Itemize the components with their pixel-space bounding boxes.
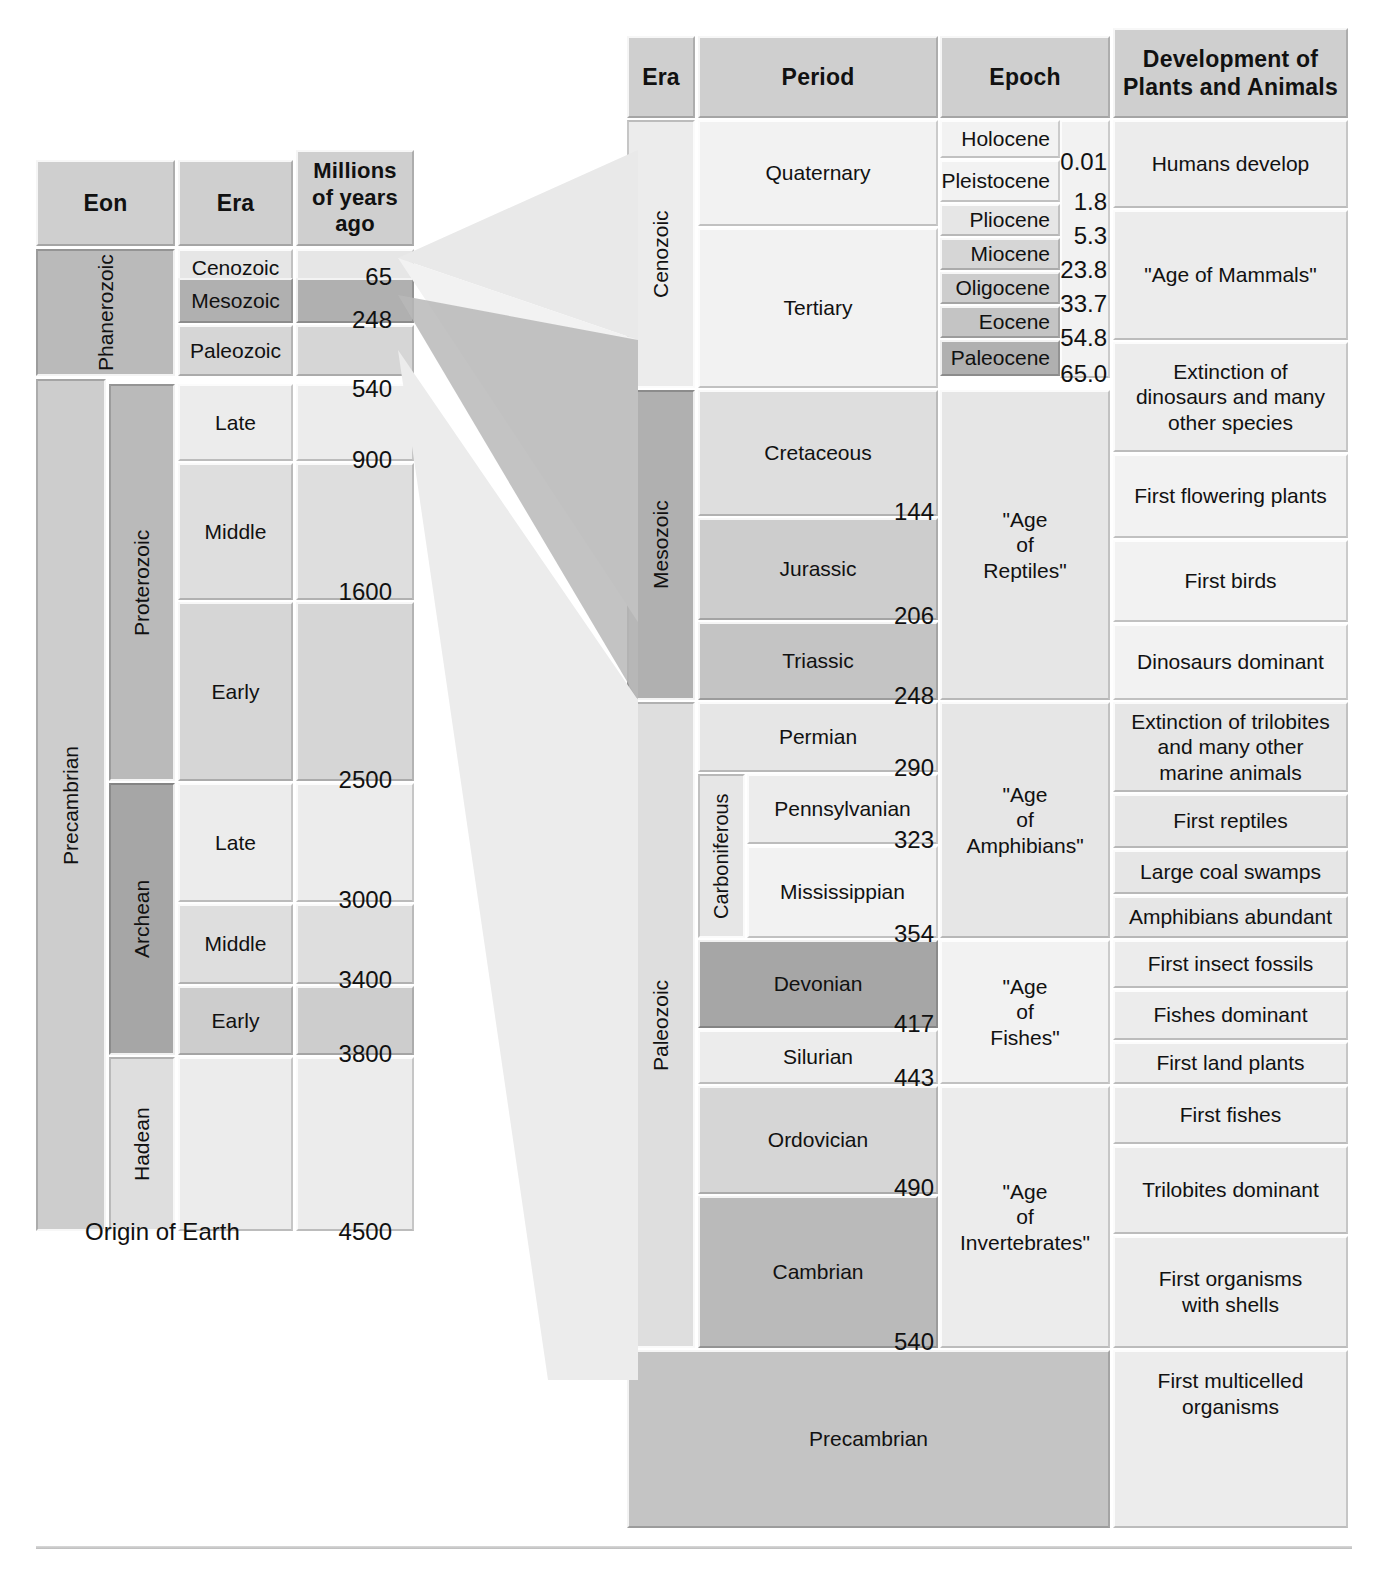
left-subdivision-archean-middle: Middle — [178, 904, 293, 984]
right-epoch-boundary-0-01: 0.01 — [1045, 148, 1107, 176]
left-header-eon: Eon — [36, 160, 175, 246]
left-boundary-248: 248 — [300, 306, 392, 334]
left-boundary-2500: 2500 — [300, 766, 392, 794]
left-era-mesozoic: Mesozoic — [178, 278, 293, 323]
footer-rule — [36, 1546, 1352, 1549]
right-period-boundary-206: 206 — [848, 602, 934, 630]
left-boundary-900: 900 — [300, 446, 392, 474]
right-header-development: Development of Plants and Animals — [1113, 28, 1348, 118]
right-epoch-holocene: Holocene — [940, 120, 1060, 158]
left-boundary-3400: 3400 — [300, 966, 392, 994]
left-subdivision-hadean-blank — [178, 1057, 293, 1231]
right-development-age-of-mammals: "Age of Mammals" — [1113, 210, 1348, 340]
right-development-trilobites-dominant: Trilobites dominant — [1113, 1146, 1348, 1234]
left-eon-precambrian: Precambrian — [36, 379, 106, 1231]
right-header-epoch: Epoch — [940, 36, 1110, 118]
left-boundary-540: 540 — [300, 375, 392, 403]
right-group-age-of-invertebrates: "Age of Invertebrates" — [940, 1086, 1110, 1348]
right-epoch-oligocene: Oligocene — [940, 272, 1060, 304]
right-era-precambrian: Precambrian — [627, 1350, 1110, 1528]
right-period-boundary-290: 290 — [848, 754, 934, 782]
right-header-era: Era — [627, 36, 695, 118]
right-development-amphibians-abundant: Amphibians abundant — [1113, 896, 1348, 938]
right-period-boundary-443: 443 — [848, 1064, 934, 1092]
left-subdivision-proterozoic-early: Early — [178, 602, 293, 781]
right-epoch-boundary-1-8: 1.8 — [1045, 188, 1107, 216]
right-development-humans-develop: Humans develop — [1113, 120, 1348, 208]
left-header-era: Era — [178, 160, 293, 246]
right-epoch-eocene: Eocene — [940, 306, 1060, 338]
right-group-age-of-amphibians: "Age of Amphibians" — [940, 702, 1110, 938]
left-era-hadean: Hadean — [109, 1057, 175, 1231]
right-period-boundary-144: 144 — [848, 498, 934, 526]
right-development-first-reptiles: First reptiles — [1113, 794, 1348, 848]
left-subdivision-archean-late: Late — [178, 783, 293, 902]
left-boundary-1600: 1600 — [300, 578, 392, 606]
right-development-extinction-trilobites: Extinction of trilobites and many other … — [1113, 702, 1348, 792]
left-mya-cell-3000 — [296, 783, 414, 902]
left-boundary-65: 65 — [300, 263, 392, 291]
right-epoch-boundary-33-7: 33.7 — [1045, 290, 1107, 318]
right-period-carboniferous: Carboniferous — [698, 774, 745, 938]
right-period-boundary-248: 248 — [848, 682, 934, 710]
left-subdivision-proterozoic-middle: Middle — [178, 463, 293, 600]
right-epoch-pleistocene: Pleistocene — [940, 160, 1060, 202]
left-eon-phanerozoic: Phanerozoic — [36, 249, 175, 376]
origin-of-earth-label: Origin of Earth — [85, 1218, 240, 1246]
right-period-boundary-417: 417 — [848, 1010, 934, 1038]
right-epoch-boundary-5-3: 5.3 — [1045, 222, 1107, 250]
right-epoch-boundary-23-8: 23.8 — [1045, 256, 1107, 284]
right-development-first-organisms-with-shells: First organisms with shells — [1113, 1236, 1348, 1348]
left-subdivision-proterozoic-late: Late — [178, 384, 293, 461]
left-subdivision-archean-early: Early — [178, 986, 293, 1055]
right-period-boundary-323: 323 — [848, 826, 934, 854]
right-header-period: Period — [698, 36, 938, 118]
left-mya-cell-4500 — [296, 1057, 414, 1231]
left-boundary-3000: 3000 — [300, 886, 392, 914]
right-period-boundary-540: 540 — [848, 1328, 934, 1356]
left-era-archean: Archean — [109, 783, 175, 1055]
right-epoch-pliocene: Pliocene — [940, 204, 1060, 236]
right-development-fishes-dominant: Fishes dominant — [1113, 990, 1348, 1040]
right-period-tertiary: Tertiary — [698, 228, 938, 388]
right-epoch-miocene: Miocene — [940, 238, 1060, 270]
right-period-quaternary: Quaternary — [698, 120, 938, 226]
right-period-cambrian: Cambrian — [698, 1196, 938, 1348]
right-period-boundary-354: 354 — [848, 920, 934, 948]
left-boundary-3800: 3800 — [300, 1040, 392, 1068]
right-development-dinosaurs-dominant: Dinosaurs dominant — [1113, 624, 1348, 700]
right-epoch-paleocene: Paleocene — [940, 340, 1060, 376]
left-mya-cell-2500 — [296, 602, 414, 781]
right-development-first-multicelled-organisms: First multicelled organisms — [1113, 1350, 1348, 1528]
right-epoch-boundary-54-8: 54.8 — [1045, 324, 1107, 352]
right-development-large-coal-swamps: Large coal swamps — [1113, 850, 1348, 894]
right-epoch-boundary-65-0: 65.0 — [1045, 360, 1107, 388]
right-group-age-of-reptiles: "Age of Reptiles" — [940, 390, 1110, 700]
right-development-first-flowering-plants: First flowering plants — [1113, 454, 1348, 538]
left-boundary-4500: 4500 — [300, 1218, 392, 1246]
right-development-first-birds: First birds — [1113, 540, 1348, 622]
right-development-first-insect-fossils: First insect fossils — [1113, 940, 1348, 988]
right-period-boundary-490: 490 — [848, 1174, 934, 1202]
right-development-first-land-plants: First land plants — [1113, 1042, 1348, 1084]
left-era-proterozoic: Proterozoic — [109, 384, 175, 781]
right-development-extinction-dinosaurs: Extinction of dinosaurs and many other s… — [1113, 342, 1348, 452]
right-group-age-of-fishes: "Age of Fishes" — [940, 940, 1110, 1084]
left-era-paleozoic: Paleozoic — [178, 325, 293, 376]
left-header-millions-of-years: Millions of years ago — [296, 150, 414, 246]
right-development-first-fishes: First fishes — [1113, 1086, 1348, 1144]
expansion-connector — [398, 150, 638, 1380]
geologic-time-scale-figure: Eon Era Millions of years ago Phanerozoi… — [0, 0, 1384, 1581]
